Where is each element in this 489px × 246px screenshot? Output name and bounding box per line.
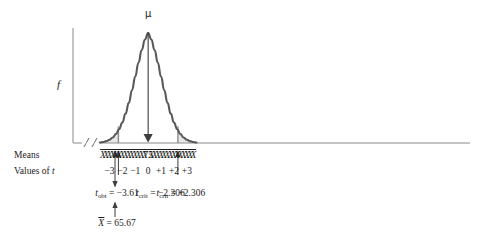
mu-label: μ	[145, 8, 151, 19]
row-label-values-of-t: Values of t	[14, 166, 55, 176]
mean-tick-28: X	[190, 150, 196, 160]
figure-canvas	[0, 0, 489, 246]
y-axis-label-f: f	[57, 78, 60, 90]
t-value-label-1: −2	[117, 166, 127, 176]
t-value-label-6: +3	[182, 166, 192, 176]
annotation-t-obt: tobt = −3.61	[95, 188, 138, 198]
annotation-sample-mean: X = 65.67	[98, 218, 135, 228]
t-value-label-2: −1	[130, 166, 140, 176]
t-value-label-3: 0	[146, 166, 151, 176]
normal-distribution-figure: fμMeansValues of tXXXXXXXXXXXXXX75XXXXXX…	[0, 0, 489, 246]
t-value-label-4: +1	[156, 166, 166, 176]
sample-mean-arrowhead	[112, 202, 117, 209]
t-obt-arrowhead-down	[112, 181, 117, 188]
mu-pointer-arrowhead	[144, 134, 153, 143]
axis-break-gap	[82, 142, 100, 144]
row-label-means: Means	[14, 150, 39, 160]
annotation-t-crit-upper: tcrit = +2.306	[157, 188, 206, 198]
t-value-label-5: +2	[169, 166, 179, 176]
t-value-label-0: −3	[104, 166, 114, 176]
